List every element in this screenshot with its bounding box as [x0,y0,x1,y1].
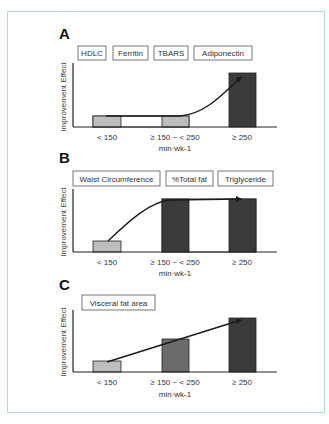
panel-a-bar-150-250 [162,116,189,127]
panel-b-bar-150-250 [162,199,189,252]
panel-a-y-axis-label: Improvement Effect [59,62,68,132]
tag-tbars: TBARS [154,46,188,60]
svg-text:Triglyceride: Triglyceride [225,175,267,184]
svg-text:Ferritin: Ferritin [118,49,143,58]
tag-adiponectin: Adiponectin [194,46,252,60]
panel-c-letter: C [59,276,70,293]
panel-b-tick-1: < 150 [97,258,118,267]
panel-b-bar-ge250 [229,199,256,252]
tag-total-fat: %Total fat [166,171,213,186]
panel-a-tick-1: < 150 [97,133,118,142]
panel-b-tags: Waist Circumference %Total fat Triglycer… [73,171,273,186]
panel-a-letter: A [59,25,70,42]
svg-text:%Total fat: %Total fat [172,175,208,184]
svg-text:Waist Circumference: Waist Circumference [80,175,154,184]
tag-hdlc: HDLC [78,46,106,60]
figure-canvas: A HDLC Ferritin TBARS Adiponectin Improv… [0,0,329,424]
panel-b: B Waist Circumference %Total fat Triglyc… [59,149,277,278]
panel-c-x-axis-label: min·wk-1 [159,390,192,399]
panel-a-tick-2: ≥ 150 ~ < 250 [150,133,200,142]
panel-a-tags: HDLC Ferritin TBARS Adiponectin [78,46,252,60]
tag-triglyceride: Triglyceride [218,171,273,186]
tag-ferritin: Ferritin [113,46,148,60]
panel-a-bar-ge250 [229,73,256,127]
tag-waist-circumference: Waist Circumference [73,171,160,186]
panel-b-tick-3: ≥ 250 [232,258,253,267]
panel-a-bar-lt150 [93,116,121,127]
svg-text:TBARS: TBARS [158,49,185,58]
panel-b-letter: B [59,149,70,166]
panel-b-y-axis-label: Improvement Effect [59,187,68,257]
panel-a: A HDLC Ferritin TBARS Adiponectin Improv… [59,25,277,153]
panel-c: C Visceral fat area Improvement Effect <… [59,276,277,399]
panel-b-x-axis-label: min·wk-1 [159,269,192,278]
panel-c-y-axis-label: Improvement Effect [59,307,68,377]
panel-c-tick-2: ≥ 150 ~ < 250 [150,378,200,387]
svg-text:Visceral fat area: Visceral fat area [90,299,148,308]
panel-b-tick-2: ≥ 150 ~ < 250 [150,258,200,267]
panel-c-tick-1: < 150 [97,378,118,387]
panel-c-bar-lt150 [93,361,121,372]
tag-visceral-fat-area: Visceral fat area [82,295,155,310]
panel-a-trend-arrow [106,77,241,116]
svg-text:Adiponectin: Adiponectin [202,49,244,58]
panel-c-tick-3: ≥ 250 [232,378,253,387]
panel-c-tags: Visceral fat area [82,295,155,310]
panel-a-tick-3: ≥ 250 [232,133,253,142]
panel-c-bar-ge250 [229,318,256,372]
panel-b-bar-lt150 [93,241,121,252]
svg-text:HDLC: HDLC [81,49,103,58]
panel-a-x-axis-label: min·wk-1 [159,144,192,153]
